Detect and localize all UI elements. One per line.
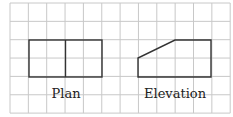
plan-label: Plan xyxy=(51,86,81,101)
plan-elevation-diagram: Plan Elevation xyxy=(0,0,233,117)
elevation-label: Elevation xyxy=(144,86,207,101)
